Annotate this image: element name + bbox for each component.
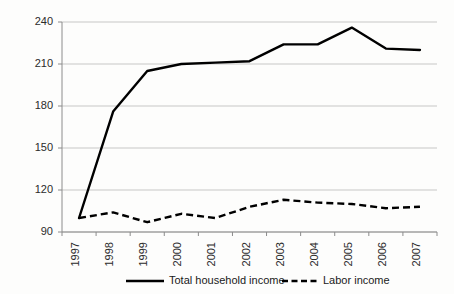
legend-item-total-household-income: Total household income bbox=[126, 274, 285, 286]
y-tick-labels: 90120150180210240 bbox=[35, 15, 53, 237]
series-labor-income bbox=[79, 200, 420, 222]
legend-label-total-household-income: Total household income bbox=[169, 274, 285, 286]
x-tick-label: 1999 bbox=[137, 242, 149, 266]
x-tick-label: 2001 bbox=[205, 242, 217, 266]
y-tick-label: 120 bbox=[35, 183, 53, 195]
x-tick-label: 2006 bbox=[376, 242, 388, 266]
y-tick-label: 210 bbox=[35, 57, 53, 69]
x-tick-label: 2000 bbox=[171, 242, 183, 266]
x-tick-label: 2007 bbox=[410, 242, 422, 266]
x-tick-labels: 1997199819992000200120022003200420052006… bbox=[69, 242, 422, 266]
legend-label-labor-income: Labor income bbox=[323, 274, 390, 286]
y-tick-label: 150 bbox=[35, 141, 53, 153]
chart-canvas: 90120150180210240 1997199819992000200120… bbox=[0, 0, 454, 294]
legend: Total household income Labor income bbox=[126, 274, 390, 286]
x-tick-label: 2002 bbox=[240, 242, 252, 266]
series-line-dashed bbox=[79, 200, 420, 222]
legend-item-labor-income: Labor income bbox=[282, 274, 390, 286]
line-chart: 90120150180210240 1997199819992000200120… bbox=[0, 0, 454, 294]
x-tick-label: 2003 bbox=[274, 242, 286, 266]
x-tick-label: 2004 bbox=[308, 242, 320, 266]
x-tick-marks bbox=[62, 232, 437, 236]
y-tick-label: 240 bbox=[35, 15, 53, 27]
y-tick-label: 180 bbox=[35, 99, 53, 111]
x-tick-label: 1998 bbox=[103, 242, 115, 266]
gridlines bbox=[58, 22, 437, 232]
y-tick-label: 90 bbox=[41, 225, 53, 237]
series-line-solid bbox=[79, 28, 420, 218]
x-tick-label: 2005 bbox=[342, 242, 354, 266]
series-total-household-income bbox=[79, 28, 420, 218]
x-tick-label: 1997 bbox=[69, 242, 81, 266]
